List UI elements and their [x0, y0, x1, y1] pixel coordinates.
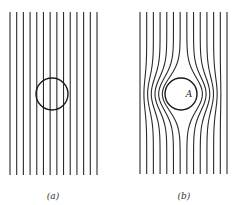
field-line	[220, 12, 221, 174]
field-line	[200, 12, 210, 174]
panel-a-caption: (a)	[47, 191, 60, 201]
panel-a-field-lines	[10, 12, 97, 175]
panel-a: (a)	[10, 12, 97, 201]
field-line	[148, 12, 154, 174]
panel-b-caption: (b)	[178, 191, 191, 201]
field-line	[144, 12, 147, 174]
field-lines-figure: (a) A (b)	[0, 0, 233, 205]
panel-b-point-label: A	[185, 89, 193, 99]
panel-b: A (b)	[140, 12, 227, 201]
field-line	[214, 12, 218, 174]
